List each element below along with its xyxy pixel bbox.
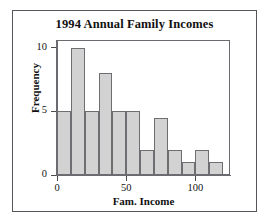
histogram-bar: [99, 73, 113, 175]
x-tick-mark: [126, 176, 127, 181]
x-axis-title: Fam. Income: [57, 195, 230, 207]
chart-title: 1994 Annual Family Incomes: [12, 17, 257, 32]
y-tick-mark: [51, 111, 56, 112]
bar-series: [57, 40, 230, 175]
x-tick-label: 100: [178, 182, 212, 193]
x-tick-mark: [57, 176, 58, 181]
y-axis-line: [56, 40, 57, 175]
histogram-bar: [140, 150, 154, 175]
y-axis-title: Frequency: [29, 43, 41, 133]
histogram-bar: [182, 162, 196, 175]
y-tick-label: 5: [17, 104, 47, 115]
y-tick-label: 10: [17, 41, 47, 52]
x-axis-line: [56, 175, 231, 176]
histogram-bar: [57, 111, 71, 175]
histogram-bar: [209, 162, 223, 175]
histogram-bar: [126, 111, 140, 175]
histogram-bar: [112, 111, 126, 175]
histogram-bar: [85, 111, 99, 175]
x-tick-label: 50: [109, 182, 143, 193]
histogram-bar: [195, 150, 209, 175]
y-tick-mark: [51, 47, 56, 48]
x-tick-label: 0: [40, 182, 74, 193]
histogram-figure: 1994 Annual Family Incomes Frequency 051…: [0, 0, 269, 223]
y-tick-label: 0: [17, 168, 47, 179]
histogram-bar: [71, 48, 85, 175]
histogram-bar: [168, 150, 182, 175]
histogram-bar: [154, 118, 168, 175]
x-tick-mark: [195, 176, 196, 181]
